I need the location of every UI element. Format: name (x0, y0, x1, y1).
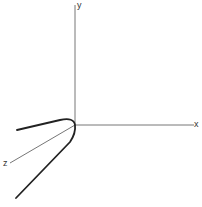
x-axis-label: x (194, 120, 199, 129)
curve (16, 119, 75, 198)
z-axis-label: z (3, 159, 8, 168)
3d-axes-diagram (0, 0, 202, 207)
z-axis (10, 125, 75, 163)
y-axis-label: y (77, 1, 82, 10)
